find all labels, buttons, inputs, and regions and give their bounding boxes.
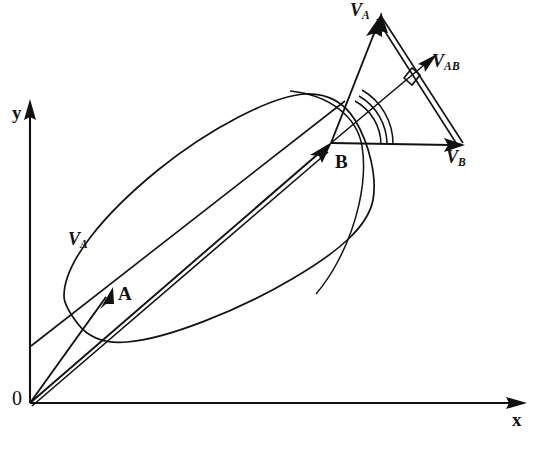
velocity-a-label: VA xyxy=(350,1,370,19)
velocity-a-body-subscript: A xyxy=(80,238,88,250)
angle-arcs-at-b xyxy=(355,90,393,144)
x-axis-label: x xyxy=(512,410,522,429)
velocity-b-label: VB xyxy=(446,148,466,166)
point-a-label: A xyxy=(118,284,132,303)
angle-arc-inner xyxy=(355,101,381,144)
y-axis-label: y xyxy=(12,103,22,122)
body-sweep-arc-group xyxy=(290,91,364,294)
velocity-b-subscript: B xyxy=(458,156,466,168)
y-axis-arrowhead xyxy=(24,99,36,120)
position-vector-ob-line-upper xyxy=(30,148,325,403)
origin-label: 0 xyxy=(12,388,22,408)
velocity-a-symbol: V xyxy=(350,0,362,20)
perpendicular-ray-from-b xyxy=(331,60,430,143)
velocity-ab-vector-line-outer xyxy=(381,16,463,143)
velocity-ab-label: VAB xyxy=(432,52,460,70)
angle-arc-outer xyxy=(362,90,393,144)
vector-diagram-figure: 0 x y A B VA VA VB VAB xyxy=(0,0,541,449)
velocity-b-vector-line xyxy=(331,143,450,145)
position-vector-ob xyxy=(30,142,332,406)
velocity-ab-subscript: AB xyxy=(444,60,460,72)
velocity-a-body-label: VA xyxy=(68,230,88,248)
position-vector-ob-arrowhead xyxy=(310,142,332,163)
x-axis-arrowhead xyxy=(506,397,527,409)
velocity-a-body-symbol: V xyxy=(68,229,80,249)
body-sweep-arc xyxy=(290,91,364,294)
rigid-body-outline xyxy=(64,94,374,342)
velocity-triangle xyxy=(331,12,465,152)
body-outline-path xyxy=(64,94,374,342)
velocity-a-subscript: A xyxy=(362,9,370,21)
position-vector-oa xyxy=(30,287,114,403)
point-b-label: B xyxy=(335,152,348,171)
velocity-a-vector-line xyxy=(331,31,375,143)
velocity-a-direction-line xyxy=(31,101,345,346)
velocity-b-symbol: V xyxy=(446,147,458,167)
position-vector-ob-line-lower xyxy=(32,152,328,406)
velocity-ab-symbol: V xyxy=(432,51,444,71)
velocity-ab-vector-line-inner xyxy=(377,19,458,146)
position-vector-oa-line xyxy=(30,297,106,403)
velocity-a-direction-line-group xyxy=(31,101,345,346)
